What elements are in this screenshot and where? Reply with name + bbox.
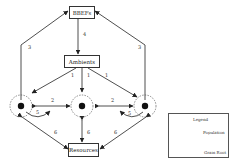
grain-root-left [18,103,24,109]
edge-label-3-left: 3 [28,44,31,50]
edge-label-1-left: 1 [71,72,74,78]
edge-label-4: 4 [83,31,86,37]
legend-population-label: Population [203,130,225,135]
legend-grain-root-label: Grain Root [204,150,226,155]
edge-label-1-mid: 1 [87,72,90,78]
edge-label-6-left: 6 [54,129,57,135]
node-ambients: Ambients [64,55,100,68]
node-bbefs: BBEFs [69,6,95,19]
edge-label-5-right: 5 [128,110,131,116]
grain-root-middle [79,103,85,109]
legend: Legend Population Grain Root [168,113,229,158]
grain-root-right [142,103,148,109]
edge-label-3-right: 3 [138,44,141,50]
legend-title: Legend [193,117,208,122]
node-resources: Resources [68,143,99,157]
edge-label-2-right: 2 [111,97,114,103]
edge-label-1-right: 1 [105,72,108,78]
edge-label-6-mid: 6 [87,129,90,135]
edge-label-6-right: 6 [114,129,117,135]
edge-label-5-left: 5 [36,109,39,115]
edge-label-2-left: 2 [51,97,54,103]
